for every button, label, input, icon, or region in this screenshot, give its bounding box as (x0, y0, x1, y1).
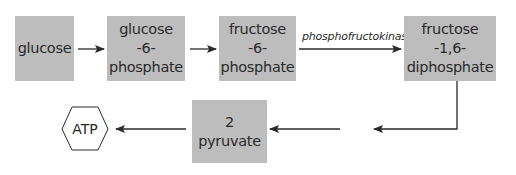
edge-label-phosphofructokinase: phosphofructokinase (302, 30, 413, 43)
node-label-line: fructose (220, 20, 294, 39)
node-fructose-6-phosphate: fructose -6- phosphate (219, 16, 296, 81)
node-label-line: glucose (18, 39, 72, 58)
node-label-line: ATP (72, 121, 97, 137)
node-glucose-6-phosphate: glucose -6- phosphate (107, 16, 185, 81)
node-label-line: fructose (407, 20, 494, 39)
node-label-line: -1,6- (407, 39, 494, 58)
node-label-line: diphosphate (407, 58, 494, 77)
node-fructose-1-6-diphosphate: fructose -1,6- diphosphate (404, 16, 496, 81)
arrow-f16dp-down-left (374, 81, 457, 129)
node-label-line: phosphate (220, 58, 294, 77)
node-label-line: 2 pyruvate (192, 113, 267, 151)
node-label-line: glucose (109, 20, 183, 39)
node-label-line: -6- (109, 39, 183, 58)
node-2-pyruvate: 2 pyruvate (192, 100, 267, 163)
node-label-line: phosphate (109, 58, 183, 77)
node-glucose: glucose (15, 16, 74, 81)
node-label-line: -6- (220, 39, 294, 58)
node-atp: ATP (62, 107, 108, 150)
